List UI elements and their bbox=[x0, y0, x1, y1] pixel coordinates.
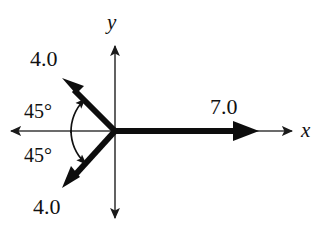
upper-left-vector bbox=[62, 78, 115, 131]
magnitude-label-lower-left: 4.0 bbox=[33, 196, 61, 218]
right-vector bbox=[115, 121, 259, 141]
y-axis-label: y bbox=[107, 12, 116, 33]
magnitude-label-right: 7.0 bbox=[210, 96, 238, 118]
angle-arc-upper bbox=[71, 100, 84, 133]
magnitude-label-upper-left: 4.0 bbox=[30, 48, 58, 70]
lower-left-vector bbox=[62, 131, 115, 188]
lower-left-vector-shaft bbox=[75, 131, 115, 175]
angle-arc-lower-path bbox=[71, 130, 85, 163]
right-vector-head bbox=[233, 121, 259, 141]
angle-label-upper: 45° bbox=[24, 101, 52, 121]
upper-left-vector-shaft bbox=[74, 90, 115, 131]
angle-arc-lower bbox=[71, 130, 85, 163]
angle-arc-upper-path bbox=[71, 100, 84, 133]
x-axis-label: x bbox=[301, 120, 310, 141]
angle-label-lower: 45° bbox=[24, 145, 52, 165]
vector-diagram-figure: 4.0 4.0 7.0 45° 45° y x bbox=[0, 0, 324, 241]
